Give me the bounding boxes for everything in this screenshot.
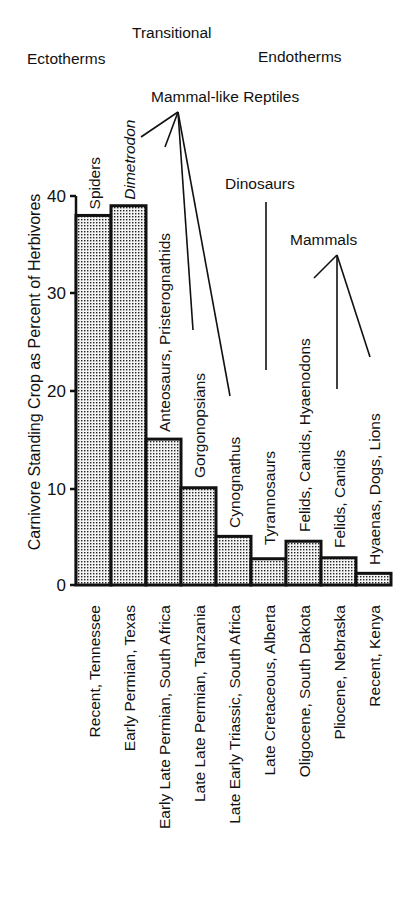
leader-lines xyxy=(141,112,370,396)
bar xyxy=(216,536,251,585)
bar xyxy=(146,439,181,585)
category-label: Pliocene, Nebraska xyxy=(331,605,348,740)
bar-annotation: Felids, Canids xyxy=(331,450,348,548)
bar xyxy=(76,215,111,585)
y-axis: 40 30 20 10 0 xyxy=(47,187,76,595)
group-label-dinosaurs: Dinosaurs xyxy=(225,175,295,192)
bar-annotation: Hyaenas, Dogs, Lions xyxy=(366,413,383,565)
bar xyxy=(181,488,216,585)
bar xyxy=(286,541,321,585)
bar-annotation: Anteosaurs, Pristerognathids xyxy=(156,233,173,432)
bar-annotation: Cynognathus xyxy=(226,436,243,528)
y-tick-10: 10 xyxy=(47,480,66,499)
y-tick-40: 40 xyxy=(47,187,66,206)
y-axis-label: Carnivore Standing Crop as Percent of He… xyxy=(26,194,43,551)
group-label-mammal-like-reptiles: Mammal-like Reptiles xyxy=(151,88,299,105)
bar-annotation: Gorgonopsians xyxy=(191,373,208,478)
bar xyxy=(251,559,286,585)
bar-annotation: Spiders xyxy=(86,157,103,210)
category-label: Late Early Triassic, South Africa xyxy=(226,605,243,824)
category-label: Oligocene, South Dakota xyxy=(296,605,313,778)
category-label: Early Permian, Texas xyxy=(121,605,138,751)
bar-annotation: Dimetrodon xyxy=(121,120,138,200)
x-axis-labels: Recent, TennesseeEarly Permian, TexasEar… xyxy=(86,605,383,829)
bar-annotation: Felids, Canids, Hyaenodons xyxy=(296,338,313,532)
y-tick-30: 30 xyxy=(47,284,66,303)
category-label: Late Cretaceous, Alberta xyxy=(261,605,278,776)
group-label-endotherms: Endotherms xyxy=(258,48,342,65)
y-tick-20: 20 xyxy=(47,382,66,401)
category-label: Recent, Tennessee xyxy=(86,605,103,737)
bar xyxy=(111,206,146,585)
carnivore-herbivore-bar-chart: Transitional Ectotherms Endotherms Mamma… xyxy=(0,0,411,922)
category-label: Late Late Permian, Tanzania xyxy=(191,605,208,802)
group-label-ectotherms: Ectotherms xyxy=(27,50,106,67)
bar xyxy=(356,573,391,585)
category-label: Early Late Permian, South Africa xyxy=(156,605,173,829)
category-label: Recent, Kenya xyxy=(366,605,383,707)
group-label-mammals: Mammals xyxy=(290,231,357,248)
bar-annotation: Tyrannosaurs xyxy=(261,451,278,545)
group-label-transitional: Transitional xyxy=(132,24,212,41)
bar xyxy=(321,558,356,585)
y-tick-0: 0 xyxy=(57,576,66,595)
